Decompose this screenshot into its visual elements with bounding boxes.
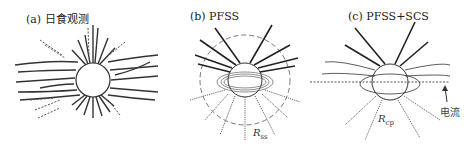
- panel-pfss: (b) PFSS Rss: [150, 0, 310, 152]
- current-sheet-label: 电流: [440, 104, 460, 119]
- pfss-drawing: [150, 0, 310, 152]
- cusp-point-radius-label: Rcp: [378, 113, 394, 127]
- eclipse-drawing: [0, 0, 160, 152]
- source-surface-radius-label: Rss: [253, 127, 268, 141]
- pfss-scs-drawing: [310, 0, 470, 152]
- panel-eclipse-observation: (a) 日食观测: [0, 0, 160, 152]
- panel-pfss-scs: (c) PFSS+SCS Rcp 电流: [310, 0, 470, 152]
